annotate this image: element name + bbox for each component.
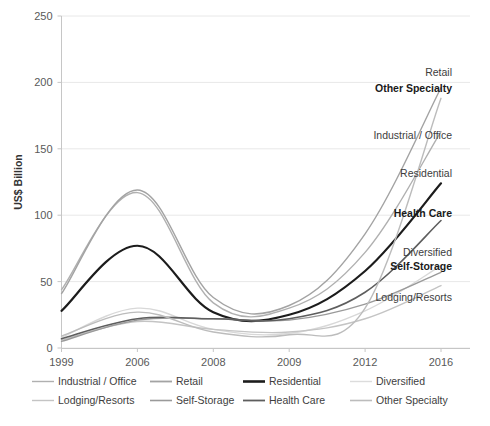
chart-canvas: 050100150200250 199920062008200920122016… bbox=[0, 0, 490, 426]
legend-item-label[interactable]: Lodging/Resorts bbox=[58, 394, 134, 406]
legend-item-label[interactable]: Other Specialty bbox=[376, 394, 449, 406]
x-tick-label: 2016 bbox=[429, 356, 453, 368]
legend-item-label[interactable]: Diversified bbox=[376, 375, 425, 387]
x-tick-label: 2009 bbox=[277, 356, 301, 368]
series-line bbox=[62, 132, 442, 317]
series-end-label: Diversified bbox=[403, 246, 452, 258]
y-axis-tick-labels: 050100150200250 bbox=[34, 10, 52, 354]
data-series-lines bbox=[62, 88, 442, 342]
x-tick-label: 2008 bbox=[201, 356, 225, 368]
series-end-label: Retail bbox=[425, 66, 452, 78]
x-tick-label: 2006 bbox=[125, 356, 149, 368]
legend-item-label[interactable]: Retail bbox=[176, 375, 203, 387]
series-end-label: Lodging/Resorts bbox=[376, 291, 452, 303]
series-end-label: Self-Storage bbox=[390, 260, 452, 272]
y-axis-title: US$ Billion bbox=[12, 154, 24, 209]
y-tick-label: 50 bbox=[40, 276, 52, 288]
y-tick-label: 200 bbox=[34, 76, 52, 88]
chart-legend: Industrial / OfficeRetailResidentialDive… bbox=[32, 375, 449, 406]
y-tick-label: 100 bbox=[34, 209, 52, 221]
y-tick-label: 150 bbox=[34, 143, 52, 155]
legend-item-label[interactable]: Health Care bbox=[269, 394, 325, 406]
legend-item-label[interactable]: Industrial / Office bbox=[58, 375, 137, 387]
x-tick-label: 2012 bbox=[353, 356, 377, 368]
legend-item-label[interactable]: Residential bbox=[269, 375, 321, 387]
series-end-label: Industrial / Office bbox=[373, 129, 452, 141]
legend-item-label[interactable]: Self-Storage bbox=[176, 394, 235, 406]
series-line bbox=[62, 221, 442, 339]
y-tick-label: 250 bbox=[34, 10, 52, 22]
x-tick-label: 1999 bbox=[49, 356, 73, 368]
x-axis-tick-labels: 199920062008200920122016 bbox=[49, 356, 453, 368]
y-tick-label: 0 bbox=[46, 342, 52, 354]
series-line bbox=[62, 88, 442, 314]
series-end-label: Other Specialty bbox=[375, 82, 452, 94]
series-line bbox=[62, 272, 442, 341]
series-end-label: Health Care bbox=[394, 207, 453, 219]
series-end-label: Residential bbox=[400, 167, 452, 179]
reit-market-cap-chart: 050100150200250 199920062008200920122016… bbox=[0, 0, 490, 426]
